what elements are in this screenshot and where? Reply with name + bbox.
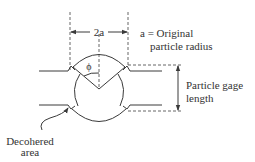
width-label: 2a: [94, 26, 105, 38]
decohered-label-line2: area: [21, 146, 39, 158]
particle-right-side: [118, 74, 124, 106]
particle-left-side: [74, 74, 80, 106]
gage-length-line2: length: [186, 92, 214, 104]
lower-left-kink: [68, 105, 75, 109]
angle-symbol: ϕ: [86, 61, 91, 72]
lower-right-kink: [123, 105, 130, 109]
angle-arc: [84, 73, 99, 76]
particle-diagram: 2a a = Original particle radius ϕ Partic…: [0, 0, 255, 162]
angle-line-right: [99, 67, 125, 89]
decohered-pointer: [41, 108, 68, 130]
radius-definition-line1: a = Original: [140, 27, 193, 39]
radius-definition-line2: particle radius: [150, 40, 213, 52]
gage-length-line1: Particle gage: [186, 79, 243, 91]
particle-bottom-arc: [72, 109, 126, 122]
